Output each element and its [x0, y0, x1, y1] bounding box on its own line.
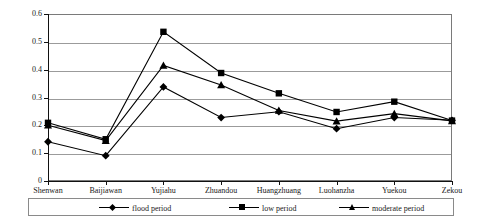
x-axis-tick-label: Yujiahu	[151, 186, 176, 196]
x-axis-tick	[48, 181, 49, 185]
x-axis-tick-label: Shenwan	[33, 186, 62, 196]
gridline	[49, 71, 451, 72]
x-axis-tick	[106, 181, 107, 185]
square-marker	[229, 203, 259, 213]
legend-label-moderate-period: moderate period	[372, 203, 424, 214]
x-axis-tick	[452, 181, 453, 185]
legend-label-flood-period: flood period	[132, 203, 171, 214]
x-axis-tick-label: Zekou	[442, 186, 462, 196]
diamond-marker	[99, 203, 129, 213]
x-axis-tick-label: Zhuandou	[205, 186, 237, 196]
legend-label-low-period: low period	[262, 203, 296, 214]
chart-legend: flood period low period moderate period	[28, 198, 454, 216]
plot-area	[48, 14, 452, 181]
y-axis-tick	[44, 42, 49, 43]
y-axis-tick-label: 0.5	[6, 37, 42, 46]
legend-item-low-period: low period	[229, 202, 296, 214]
x-axis-tick	[394, 181, 395, 185]
gridline	[49, 126, 451, 127]
gridline	[49, 43, 451, 44]
y-axis-tick	[44, 98, 49, 99]
y-axis-tick	[44, 153, 49, 154]
x-axis-tick	[163, 181, 164, 185]
x-axis-tick-label: Luohanzha	[319, 186, 355, 196]
gridline	[49, 99, 451, 100]
x-axis-tick	[221, 181, 222, 185]
gridline	[49, 154, 451, 155]
x-axis-tick-label: Yuekou	[382, 186, 406, 196]
x-axis-tick	[279, 181, 280, 185]
x-axis-line	[48, 181, 452, 182]
y-axis-tick-label: 0.3	[6, 93, 42, 102]
y-axis-tick-label: 0.2	[6, 120, 42, 129]
y-axis-tick	[44, 125, 49, 126]
line-chart: 0.60.50.40.30.20.10 ShenwanBaijiawanYuji…	[0, 0, 482, 224]
y-axis-tick-label: 0.4	[6, 65, 42, 74]
x-axis-tick-label: Huangzhuang	[257, 186, 301, 196]
y-axis-tick	[44, 14, 49, 15]
y-axis-tick-label: 0.1	[6, 148, 42, 157]
legend-item-moderate-period: moderate period	[339, 202, 424, 214]
x-axis-tick-label: Baijiawan	[89, 186, 121, 196]
x-axis-tick	[337, 181, 338, 185]
triangle-marker	[339, 203, 369, 213]
y-axis-tick-label: 0.6	[6, 9, 42, 18]
y-axis-tick-label: 0	[6, 176, 42, 185]
y-axis-tick	[44, 70, 49, 71]
legend-item-flood-period: flood period	[99, 202, 171, 214]
